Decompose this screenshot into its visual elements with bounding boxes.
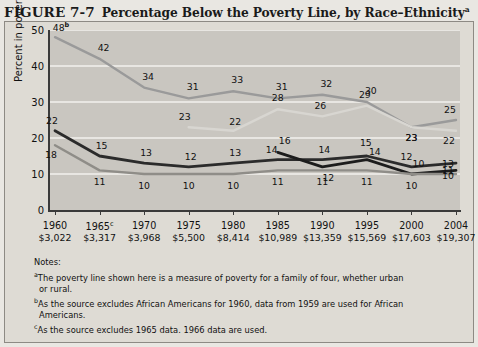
x-axis-year-1960: 1960 xyxy=(43,220,67,231)
x-axis-poverty-line-1960: $3,022 xyxy=(39,232,72,243)
chart-svg xyxy=(49,30,460,210)
y-axis-label: Percent in poverty xyxy=(13,0,24,82)
data-label-national-average-1985: 14 xyxy=(266,145,278,154)
x-axis-line xyxy=(48,210,461,212)
y-tick-10: 10 xyxy=(31,169,44,180)
plot-canvas xyxy=(49,30,460,210)
x-axis-poverty-line-1975: $5,500 xyxy=(172,232,205,243)
x-axis-year-1980: 1980 xyxy=(221,220,245,231)
data-label-whites-2004: 10 xyxy=(442,171,454,180)
data-label-latinos-1995: 29 xyxy=(359,90,371,99)
x-axis-poverty-line-1990: $13,359 xyxy=(303,232,342,243)
data-label-whites-1960: 18 xyxy=(45,151,57,160)
data-label-national-average-1990: 14 xyxy=(318,145,330,154)
x-tick-mark-1980 xyxy=(233,210,234,215)
data-label-african-americans-1965: 42 xyxy=(98,43,110,52)
x-axis-year-1970: 1970 xyxy=(132,220,156,231)
data-label-whites-1965: 11 xyxy=(94,178,106,187)
x-axis-poverty-line-1970: $3,968 xyxy=(128,232,161,243)
x-axis-poverty-line-2004: $19,307 xyxy=(437,232,476,243)
x-tick-mark-1970 xyxy=(144,210,145,215)
y-tick-20: 20 xyxy=(31,133,44,144)
data-label-latinos-1985: 28 xyxy=(272,94,284,103)
chart-panel: African Americans Asian Americans Latino… xyxy=(4,21,474,343)
note-b-line2: Americans. xyxy=(34,310,464,321)
data-label-african-americans-1970: 34 xyxy=(142,72,154,81)
x-axis-poverty-line-1995: $15,569 xyxy=(347,232,386,243)
figure-title-text: Percentage Below the Poverty Line, by Ra… xyxy=(102,6,465,20)
x-axis-poverty-line-1985: $10,989 xyxy=(258,232,297,243)
x-tick-mark-1965 xyxy=(100,210,101,215)
data-label-african-americans-2004: 25 xyxy=(444,105,456,114)
x-axis-poverty-line-1965: $3,317 xyxy=(83,232,116,243)
x-axis-year-1975: 1975 xyxy=(176,220,200,231)
x-axis-poverty-line-1980: $8,414 xyxy=(217,232,250,243)
y-tick-30: 30 xyxy=(31,97,44,108)
x-tick-mark-1960 xyxy=(55,210,56,215)
data-label-asian-americans-1995: 14 xyxy=(369,147,381,156)
x-tick-mark-1995 xyxy=(367,210,368,215)
figure-container: FIGURE 7-7 Percentage Below the Poverty … xyxy=(0,0,478,347)
figure-title-superscript: a xyxy=(465,5,470,14)
data-label-latinos-2004: 22 xyxy=(443,136,455,145)
data-label-asian-americans-1985: 16 xyxy=(279,137,291,146)
data-label-african-americans-1960: 48b xyxy=(53,22,70,32)
x-axis-poverty-line-2000: $17,603 xyxy=(392,232,431,243)
figure-notes: Notes: aThe poverty line shown here is a… xyxy=(34,257,464,336)
note-b: bAs the source excludes African American… xyxy=(34,295,464,310)
data-label-whites-1970: 10 xyxy=(138,181,150,190)
y-tick-40: 40 xyxy=(31,61,44,72)
data-label-national-average-2000: 12 xyxy=(401,152,413,161)
data-label-national-average-1975: 12 xyxy=(185,152,197,161)
page-title: Percentage Below the Poverty Line, by Ra… xyxy=(102,5,470,20)
plot-area: Percent in poverty 01020304050 1960$3,02… xyxy=(49,30,460,226)
note-c-line1: As the source excludes 1965 data. 1966 d… xyxy=(37,325,267,335)
data-label-latinos-1980: 22 xyxy=(229,117,241,126)
data-label-national-average-1970: 13 xyxy=(140,149,152,158)
data-label-whites-1980: 10 xyxy=(227,181,239,190)
x-axis-year-1995: 1995 xyxy=(355,220,379,231)
y-tick-0: 0 xyxy=(38,205,44,216)
x-axis-year-1965: 1965c xyxy=(86,220,114,232)
data-label-national-average-1965: 15 xyxy=(96,141,108,150)
x-tick-mark-2004 xyxy=(456,210,457,215)
x-axis-year-2004: 2004 xyxy=(444,220,468,231)
data-label-african-americans-1985: 31 xyxy=(276,83,288,92)
data-label-whites-1975: 10 xyxy=(183,181,195,190)
note-a-line2: or rural. xyxy=(34,284,464,295)
x-axis-year-1990: 1990 xyxy=(310,220,334,231)
x-axis-year-2000: 2000 xyxy=(399,220,423,231)
data-label-whites-1985: 11 xyxy=(272,178,284,187)
figure-title-bar: FIGURE 7-7 Percentage Below the Poverty … xyxy=(0,0,478,20)
data-label-latinos-1990: 26 xyxy=(314,102,326,111)
note-c: cAs the source excludes 1965 data. 1966 … xyxy=(34,321,464,336)
y-tick-50: 50 xyxy=(31,25,44,36)
data-label-national-average-1960: 22 xyxy=(46,116,58,125)
data-label-african-americans-1990: 32 xyxy=(320,79,332,88)
series-line-african-americans xyxy=(55,37,456,127)
data-label-whites-1995: 11 xyxy=(361,178,373,187)
data-label-asian-americans-2000: 10 xyxy=(413,159,425,168)
x-tick-mark-1975 xyxy=(189,210,190,215)
note-a: aThe poverty line shown here is a measur… xyxy=(34,269,464,284)
x-axis-year-1985: 1985 xyxy=(266,220,290,231)
data-label-whites-2000: 10 xyxy=(406,181,418,190)
data-label-latinos-1975: 23 xyxy=(179,113,191,122)
note-b-line1: As the source excludes African Americans… xyxy=(38,299,403,309)
data-label-african-americans-1980: 33 xyxy=(231,76,243,85)
x-tick-mark-1985 xyxy=(278,210,279,215)
data-label-african-americans-1975: 31 xyxy=(187,83,199,92)
data-label-whites-1990: 11 xyxy=(316,178,328,187)
x-tick-mark-1990 xyxy=(322,210,323,215)
x-tick-mark-2000 xyxy=(411,210,412,215)
notes-heading: Notes: xyxy=(34,257,464,268)
series-line-national-average xyxy=(55,131,456,167)
data-label-latinos-2000: 23 xyxy=(406,134,418,143)
note-a-line1: The poverty line shown here is a measure… xyxy=(38,272,404,282)
data-label-national-average-1980: 13 xyxy=(229,149,241,158)
